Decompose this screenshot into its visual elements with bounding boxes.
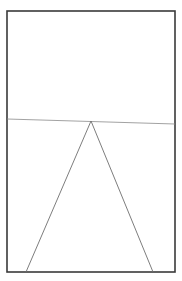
triangle-right-edge	[91, 121, 153, 272]
perspective-diagram	[0, 0, 182, 281]
frame-rectangle	[7, 11, 175, 272]
triangle-left-edge	[26, 121, 91, 272]
diagram-canvas	[0, 0, 182, 281]
